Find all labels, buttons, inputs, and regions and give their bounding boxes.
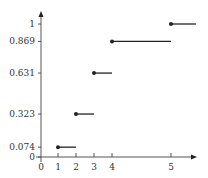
y-tick-label: 0.869: [9, 36, 35, 46]
y-tick-label: 1: [29, 19, 35, 29]
closed-point-icon: [110, 39, 114, 43]
y-tick-label: 0: [29, 152, 35, 162]
x-tick-label: 5: [168, 162, 174, 172]
x-tick-label: 4: [109, 162, 115, 172]
x-tick-label: 0: [38, 162, 44, 172]
closed-point-icon: [92, 71, 96, 75]
step-chart: 012345 00.0740.3230.6310.8691: [0, 0, 208, 178]
x-tick-label: 2: [73, 162, 79, 172]
y-tick-label: 0.074: [9, 142, 35, 152]
y-tick-label: 0.631: [9, 68, 35, 78]
x-axis-arrow-icon: [191, 155, 197, 160]
x-tick-label: 3: [91, 162, 97, 172]
closed-point-icon: [169, 22, 173, 26]
y-axis-arrow-icon: [39, 11, 44, 17]
closed-point-icon: [74, 112, 78, 116]
x-tick-label: 1: [55, 162, 61, 172]
y-tick-label: 0.323: [9, 109, 35, 119]
closed-point-icon: [56, 145, 60, 149]
